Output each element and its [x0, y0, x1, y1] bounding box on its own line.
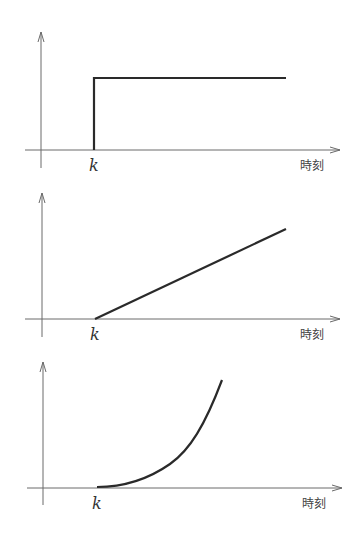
ramp-curve	[95, 229, 286, 319]
x-axis-label: 時刻	[300, 328, 324, 342]
panel-ramp: k 時刻	[25, 193, 340, 344]
x-axis-label: 時刻	[302, 497, 326, 511]
k-label: k	[92, 494, 102, 513]
panel-convex: k 時刻	[27, 362, 342, 513]
k-label: k	[89, 156, 99, 175]
k-label: k	[90, 325, 100, 344]
panel-step: k 時刻	[25, 32, 340, 175]
convex-curve	[97, 380, 222, 487]
figure: k 時刻 k 時刻 k 時刻	[0, 0, 363, 543]
step-curve	[94, 78, 286, 150]
x-axis-label: 時刻	[300, 159, 324, 173]
